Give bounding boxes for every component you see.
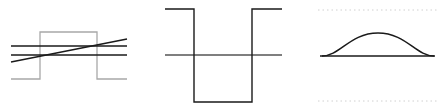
diagonal-line	[11, 39, 127, 62]
panel-gaussian	[318, 10, 438, 101]
diagram-canvas	[0, 0, 443, 110]
panel-inverted-pulse	[165, 9, 282, 102]
diagram-svg	[0, 0, 443, 110]
gaussian-curve	[322, 33, 434, 56]
panel-square-pulse	[11, 32, 127, 79]
